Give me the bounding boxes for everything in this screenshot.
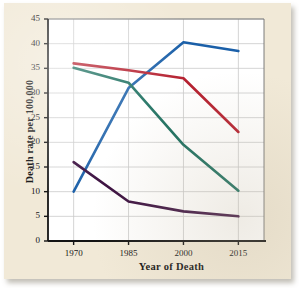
chart-canvas [4, 3, 291, 279]
y-axis-title: Death rate per 100,000 [24, 62, 35, 202]
x-tick-label: 2000 [168, 248, 198, 258]
y-tick-label: 45 [22, 13, 40, 23]
line-chart: 051015202530354045 1970198520002015 Deat… [4, 3, 291, 279]
x-tick-label: 1985 [114, 248, 144, 258]
x-axis-title: Year of Death [64, 261, 279, 272]
y-tick-label: 40 [22, 38, 40, 48]
y-tick-label: 5 [22, 210, 40, 220]
x-tick-label: 1970 [59, 248, 89, 258]
chart-paper-card: 051015202530354045 1970198520002015 Deat… [4, 3, 291, 279]
y-tick-label: 0 [22, 235, 40, 245]
figure-root: 051015202530354045 1970198520002015 Deat… [0, 0, 299, 288]
x-tick-label: 2015 [223, 248, 253, 258]
